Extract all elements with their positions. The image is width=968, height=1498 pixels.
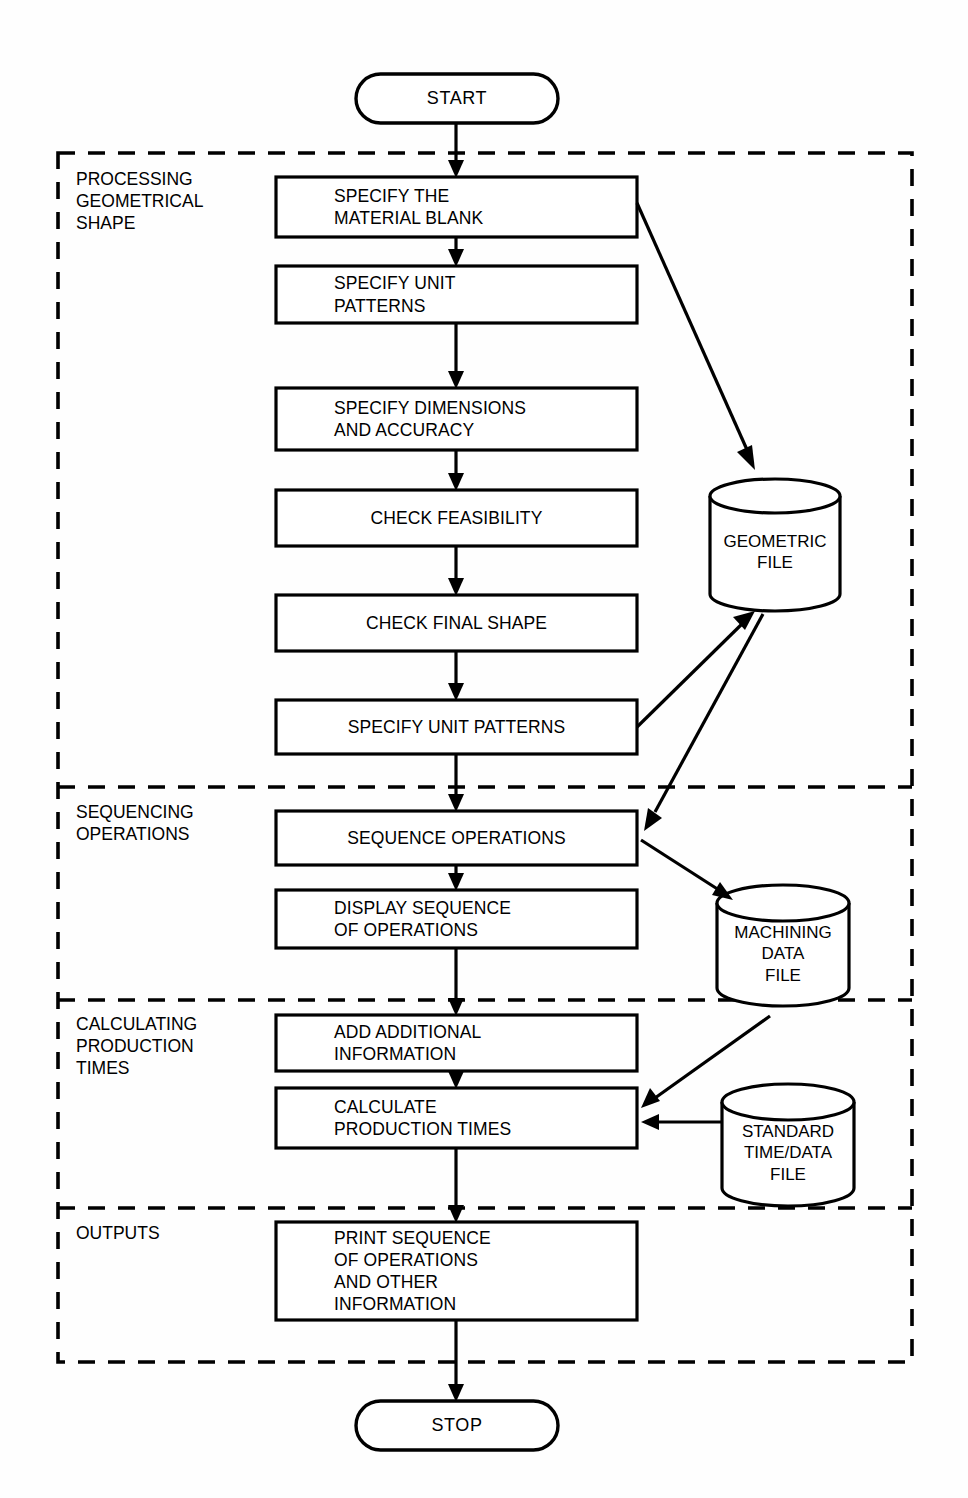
box-display-sequence	[276, 890, 637, 948]
arrowhead-display-to-add-info	[448, 998, 464, 1016]
arrowhead-unit-patterns-to-dimensions	[448, 371, 464, 389]
box-specify-material-blank	[276, 177, 637, 237]
box-check-feasibility	[276, 490, 637, 546]
arrowhead-unit-patterns-2-to-sequence	[448, 794, 464, 812]
arrowhead-material-blank-to-geometric-file	[737, 445, 755, 470]
box-specify-unit-patterns-2	[276, 700, 637, 754]
label-geometric-file: GEOMETRIC FILE	[710, 508, 840, 596]
flow-unit-patterns-2-to-geometric-file	[637, 622, 744, 727]
zone-label-outputs: OUTPUTS	[76, 1222, 256, 1244]
flow-geometric-file-to-sequence	[655, 614, 763, 812]
arrowhead-final-shape-to-unit-patterns-2	[448, 683, 464, 701]
arrowhead-material-blank-to-unit-patterns	[448, 249, 464, 267]
box-calculate-production-times	[276, 1088, 637, 1148]
zone-label-sequencing-operations: SEQUENCING OPERATIONS	[76, 801, 256, 845]
arrowhead-add-info-to-calculate	[448, 1071, 464, 1089]
start-terminator-label: START	[356, 74, 558, 123]
box-print-sequence	[276, 1222, 637, 1320]
arrowhead-calculate-to-print	[448, 1205, 464, 1223]
arrowhead-dimensions-to-feasibility	[448, 473, 464, 491]
stop-terminator-label: STOP	[356, 1401, 558, 1450]
flow-sequence-to-machining-file	[641, 840, 719, 890]
box-sequence-operations	[276, 811, 637, 865]
flow-material-blank-to-geometric-file	[637, 203, 748, 452]
arrowhead-machining-file-to-calculate	[641, 1088, 660, 1108]
arrowhead-geometric-file-to-sequence	[644, 808, 662, 831]
zone-label-calculating-production-times: CALCULATING PRODUCTION TIMES	[76, 1013, 256, 1079]
box-specify-unit-patterns-1	[276, 266, 637, 323]
arrowhead-standard-file-to-calculate	[641, 1114, 659, 1130]
flowchart-canvas: START STOP PROCESSING GEOMETRICAL SHAPE …	[0, 0, 968, 1498]
arrowhead-start-to-material-blank	[448, 160, 464, 178]
arrowhead-sequence-to-display	[448, 873, 464, 891]
label-machining-data-file: MACHINING DATA FILE	[717, 912, 849, 996]
box-specify-dimensions-accuracy	[276, 388, 637, 450]
box-check-final-shape	[276, 595, 637, 651]
zone-label-processing-geometrical-shape: PROCESSING GEOMETRICAL SHAPE	[76, 168, 256, 234]
arrowhead-feasibility-to-final-shape	[448, 578, 464, 596]
arrowhead-unit-patterns-2-to-geometric-file	[733, 611, 755, 630]
box-add-additional-information	[276, 1015, 637, 1071]
label-standard-time-data-file: STANDARD TIME/DATA FILE	[722, 1110, 854, 1196]
